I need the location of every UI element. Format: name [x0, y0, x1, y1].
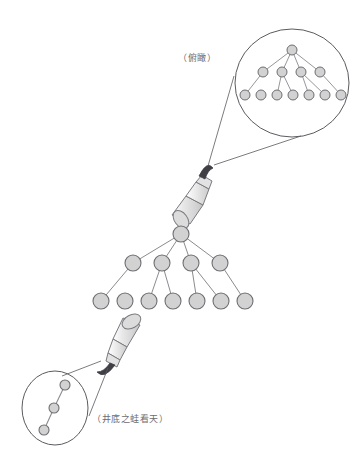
tree-node	[256, 90, 266, 100]
scope-arrowhead-icon	[199, 165, 213, 179]
tree-node	[154, 255, 170, 271]
tree-node	[315, 67, 325, 77]
tree-node	[240, 90, 250, 100]
tree-node-leaf	[213, 293, 229, 309]
tree-node-leaf	[189, 293, 205, 309]
tree-node	[258, 67, 268, 77]
overview-lens-nodes	[240, 45, 346, 100]
tree-node	[336, 90, 346, 100]
tree-node	[304, 90, 314, 100]
frog-lens-group	[22, 371, 88, 445]
tree-node	[272, 90, 282, 100]
diagram-svg	[0, 0, 364, 473]
tree-node-leaf	[93, 293, 109, 309]
tree-node	[60, 380, 70, 390]
lower-scope-cone	[97, 311, 143, 375]
tree-node	[183, 255, 199, 271]
tree-node-leaf	[117, 293, 133, 309]
upper-leader-lines	[208, 76, 301, 166]
diagram-canvas: （俯瞰） （井底之蛙看天）	[0, 0, 364, 473]
tree-node	[287, 45, 297, 55]
tree-node	[277, 67, 287, 77]
tree-node-leaf	[165, 293, 181, 309]
overview-lens-group	[235, 29, 349, 137]
overview-caption: （俯瞰）	[178, 51, 216, 64]
frog-caption: （井底之蛙看天）	[92, 412, 168, 425]
tree-node	[320, 90, 330, 100]
tree-node-leaf	[237, 293, 253, 309]
main-tree-group	[93, 226, 253, 309]
tree-node	[296, 67, 306, 77]
tree-node	[39, 425, 49, 435]
tree-node	[125, 255, 141, 271]
upper-scope-cone	[170, 165, 213, 231]
tree-node-root	[173, 226, 189, 242]
frog-lens-nodes	[39, 380, 70, 435]
tree-node-leaf	[141, 293, 157, 309]
tree-node	[288, 90, 298, 100]
tree-node	[212, 255, 228, 271]
tree-node	[49, 403, 59, 413]
